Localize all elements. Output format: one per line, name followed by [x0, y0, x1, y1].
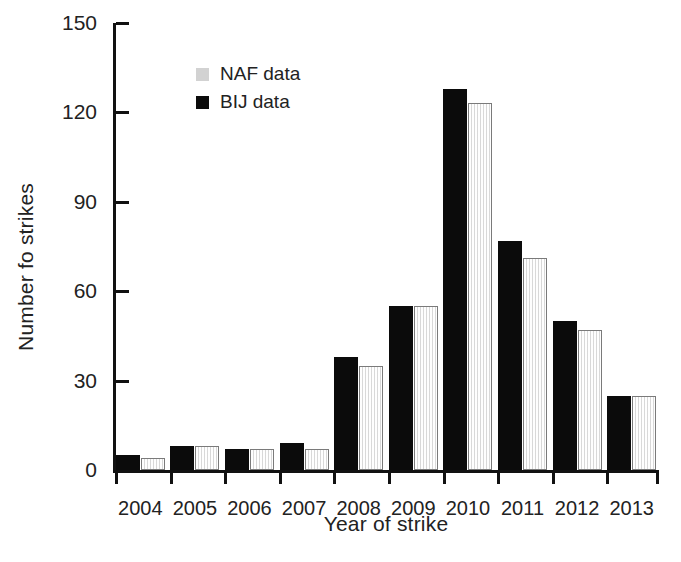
legend-label-naf: NAF data: [220, 63, 300, 85]
x-label-2013: 2013: [609, 497, 654, 520]
bar-bij-2012: [553, 321, 577, 470]
bar-bij-2004: [116, 455, 140, 470]
x-tick-2007: [279, 473, 282, 484]
x-tick-2011: [497, 473, 500, 484]
bar-bij-2011: [498, 241, 522, 470]
x-tick-2008: [333, 473, 336, 484]
legend-item-naf: NAF data: [196, 62, 300, 86]
bar-naf-2012: [578, 330, 602, 470]
x-label-2010: 2010: [446, 497, 491, 520]
x-label-2008: 2008: [336, 497, 381, 520]
x-label-2004: 2004: [118, 497, 163, 520]
bar-series-container: [113, 23, 659, 470]
x-label-2005: 2005: [173, 497, 218, 520]
x-tick-2004: [115, 473, 118, 484]
legend-swatch-bij-icon: [196, 96, 209, 109]
x-tick-2010: [443, 473, 446, 484]
bar-naf-2011: [523, 258, 547, 470]
bar-bij-2005: [170, 446, 194, 470]
bar-naf-2010: [468, 103, 492, 470]
legend-label-bij: BIJ data: [220, 91, 290, 113]
y-tick-label-30: 30: [74, 369, 97, 393]
bar-bij-2007: [280, 443, 304, 470]
bar-bij-2013: [607, 396, 631, 471]
bar-naf-2013: [632, 396, 656, 471]
x-label-2011: 2011: [501, 497, 544, 520]
x-tick-2009: [388, 473, 391, 484]
plot-area: 2004200520062007200820092010201120122013: [113, 23, 659, 470]
bar-naf-2004: [141, 458, 165, 470]
legend-item-bij: BIJ data: [196, 90, 300, 114]
bar-bij-2008: [334, 357, 358, 470]
legend-swatch-naf-icon: [196, 68, 209, 81]
y-tick-label-120: 120: [62, 100, 97, 124]
x-tick-2005: [170, 473, 173, 484]
bar-naf-2007: [305, 449, 329, 470]
x-label-2012: 2012: [555, 497, 600, 520]
y-tick-label-150: 150: [62, 11, 97, 35]
x-label-2009: 2009: [391, 497, 436, 520]
y-tick-label-60: 60: [74, 279, 97, 303]
y-tick-label-90: 90: [74, 190, 97, 214]
bar-naf-2008: [359, 366, 383, 470]
bar-chart-figure: Number fo strikes Year of strike 0306090…: [0, 0, 681, 562]
chart-legend: NAF data BIJ data: [196, 62, 300, 118]
x-tick-end: [656, 473, 659, 484]
x-label-2007: 2007: [282, 497, 327, 520]
y-axis-tick-labels: 0306090120150: [0, 0, 113, 470]
x-label-2006: 2006: [227, 497, 272, 520]
bar-naf-2005: [195, 446, 219, 470]
y-tick-label-0: 0: [85, 458, 97, 482]
x-tick-2006: [224, 473, 227, 484]
x-tick-2013: [606, 473, 609, 484]
bar-bij-2010: [443, 89, 467, 470]
bar-naf-2009: [414, 306, 438, 470]
x-tick-2012: [552, 473, 555, 484]
bar-bij-2006: [225, 449, 249, 470]
bar-naf-2006: [250, 449, 274, 470]
x-axis-line: [113, 470, 659, 473]
bar-bij-2009: [389, 306, 413, 470]
